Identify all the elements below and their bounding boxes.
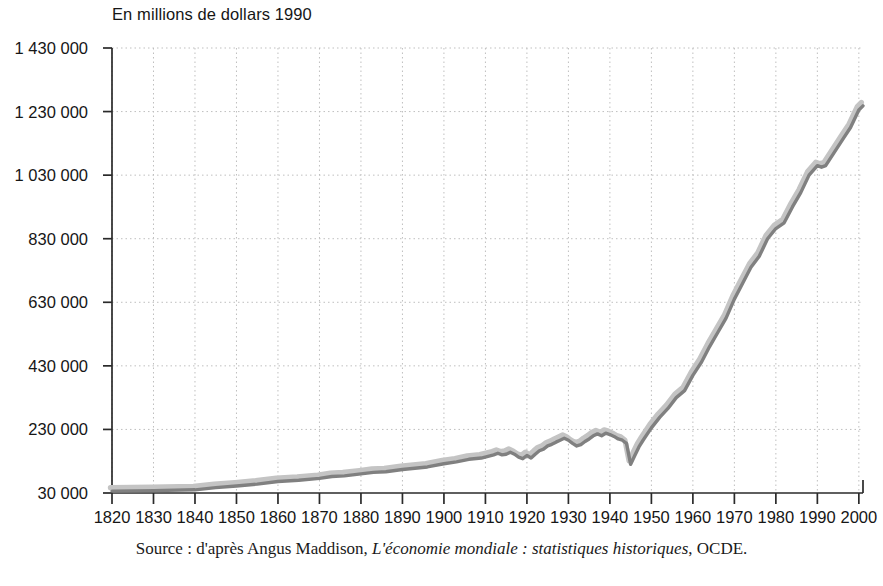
- source-title-italic: L'économie mondiale : statistiques histo…: [372, 539, 688, 558]
- series-main-line: [112, 106, 863, 491]
- horizontal-gridlines: [112, 48, 863, 429]
- chart-figure: En millions de dollars 1990 30 000230 00…: [0, 0, 883, 586]
- plot-area: [0, 0, 883, 586]
- source-prefix: Source : d'après Angus Maddison,: [136, 539, 372, 558]
- source-suffix: , OCDE.: [688, 539, 747, 558]
- data-series: [110, 102, 863, 491]
- source-caption: Source : d'après Angus Maddison, L'écono…: [0, 539, 883, 559]
